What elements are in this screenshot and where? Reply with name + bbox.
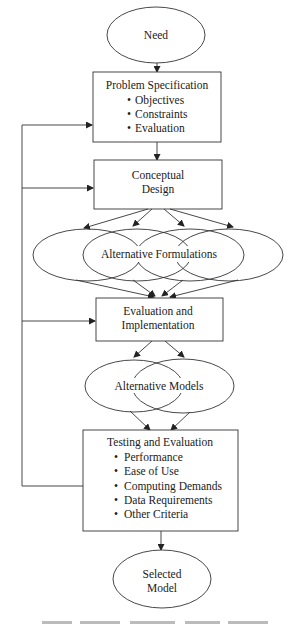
bullet-icon: • xyxy=(127,122,131,134)
alternative-models-label: Alternative Models xyxy=(114,380,204,392)
bullet-computing-demands: Computing Demands xyxy=(124,480,223,493)
bullet-objectives: Objectives xyxy=(135,94,185,107)
arrow-eval-to-model-2 xyxy=(165,341,184,357)
problem-spec-bullets: • Objectives • Constraints • Evaluation xyxy=(127,94,188,134)
arrow-model-1-to-testing xyxy=(130,411,150,430)
flowchart: Need Problem Specification • Objectives … xyxy=(0,0,297,624)
bullet-icon: • xyxy=(127,94,131,106)
feedback-loop-line xyxy=(22,125,83,486)
bullet-icon: • xyxy=(127,108,131,120)
arrow-model-2-to-testing xyxy=(171,412,190,430)
testing-evaluation-title: Testing and Evaluation xyxy=(107,436,213,449)
bullet-other-criteria: Other Criteria xyxy=(124,508,188,520)
bullet-icon: • xyxy=(114,508,118,520)
arrow-design-to-formulation-4 xyxy=(170,209,233,227)
bullet-ease-of-use: Ease of Use xyxy=(124,465,179,477)
arrow-design-to-formulation-3 xyxy=(164,209,184,226)
bullet-constraints: Constraints xyxy=(135,108,188,120)
evaluation-implementation-line1: Evaluation and xyxy=(123,305,193,317)
arrow-design-to-formulation-2 xyxy=(133,209,152,226)
arrow-design-to-formulation-1 xyxy=(84,209,148,228)
bullet-data-requirements: Data Requirements xyxy=(124,494,213,507)
arrow-formulation-3-to-eval xyxy=(162,280,183,296)
bullet-evaluation: Evaluation xyxy=(135,122,185,134)
problem-specification-title: Problem Specification xyxy=(106,79,209,92)
arrow-eval-to-model-1 xyxy=(134,341,152,357)
bullet-icon: • xyxy=(114,465,118,477)
bullet-performance: Performance xyxy=(124,451,183,463)
selected-model-line1: Selected xyxy=(143,568,182,580)
arrow-formulation-1-to-eval xyxy=(76,280,154,297)
bullet-icon: • xyxy=(114,480,118,492)
bullet-icon: • xyxy=(114,494,118,506)
evaluation-implementation-line2: Implementation xyxy=(122,319,195,332)
alternative-formulations-label: Alternative Formulations xyxy=(101,248,217,260)
conceptual-design-line1: Conceptual xyxy=(132,169,184,182)
bullet-icon: • xyxy=(114,451,118,463)
need-label: Need xyxy=(144,29,169,41)
selected-model-line2: Model xyxy=(147,582,177,594)
conceptual-design-line2: Design xyxy=(142,183,175,196)
